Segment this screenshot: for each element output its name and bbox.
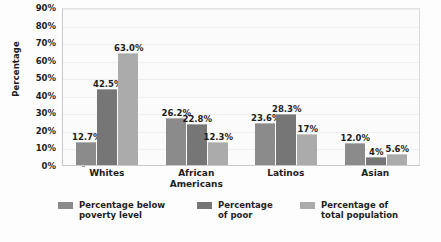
chart-legend: Percentage below poverty levelPercentage… <box>0 200 441 228</box>
bar <box>255 123 275 165</box>
y-axis-tick-label: 50% <box>24 73 56 83</box>
bar <box>76 142 96 165</box>
bar-group: 23.6%28.3%17% <box>255 9 318 165</box>
bar <box>345 143 365 165</box>
bar <box>97 89 117 165</box>
legend-label: Percentage of total population <box>321 200 398 220</box>
y-axis-tick-label: 20% <box>24 126 56 136</box>
x-axis-category-label: African Americans <box>170 168 223 190</box>
x-axis-category-label: Whites <box>89 168 124 179</box>
y-axis-tick-label: 60% <box>24 56 56 66</box>
bar <box>276 114 296 165</box>
y-axis-tick-label: 30% <box>24 108 56 118</box>
bar-value-label: 22.8% <box>183 114 213 124</box>
y-axis-tick-labels: 0%10%20%30%40%50%60%70%80%90% <box>24 8 56 166</box>
bar-value-label: 17% <box>298 124 318 134</box>
y-axis-tick-mark <box>82 166 85 167</box>
legend-item[interactable]: Percentage of total population <box>300 200 398 220</box>
y-axis-tick-label: 40% <box>24 91 56 101</box>
y-axis-tick-label: 10% <box>24 143 56 153</box>
bar <box>366 157 386 165</box>
bar-value-label: 5.6% <box>385 144 409 154</box>
bar <box>297 134 317 165</box>
legend-label: Percentage below poverty level <box>79 200 165 220</box>
y-axis-tick-label: 0% <box>24 161 56 171</box>
bar-value-label: 4% <box>369 147 383 157</box>
chart-figure: Percentage 0%10%20%30%40%50%60%70%80%90%… <box>0 0 441 242</box>
cut-off-title <box>0 0 441 6</box>
x-axis-category-label: Asian <box>361 168 389 179</box>
bar <box>118 53 138 165</box>
y-axis-tick-label: 70% <box>24 38 56 48</box>
y-axis-title: Percentage <box>11 29 21 109</box>
y-axis-tick-label: 80% <box>24 21 56 31</box>
x-axis-category-labels: WhitesAfrican AmericansLatinosAsian <box>62 168 420 194</box>
plot-area: 12.7%42.5%63.0%26.2%22.8%12.3%23.6%28.3%… <box>62 8 420 166</box>
bar-group: 12.0%4%5.6% <box>345 9 408 165</box>
bar-group: 12.7%42.5%63.0% <box>76 9 139 165</box>
bar <box>387 154 407 165</box>
bar <box>166 118 186 165</box>
bar-value-label: 28.3% <box>272 104 302 114</box>
bar <box>187 124 207 165</box>
y-axis-tick-label: 90% <box>24 3 56 13</box>
bar-value-label: 12.0% <box>341 133 371 143</box>
legend-item[interactable]: Percentage below poverty level <box>58 200 165 220</box>
bar-value-label: 12.3% <box>204 132 234 142</box>
x-axis-category-label: Latinos <box>267 168 304 179</box>
bar-value-label: 63.0% <box>114 43 144 53</box>
legend-label: Percentage of poor <box>218 200 273 220</box>
legend-color-swatch <box>197 202 212 209</box>
bar <box>208 142 228 165</box>
bar-groups: 12.7%42.5%63.0%26.2%22.8%12.3%23.6%28.3%… <box>63 9 419 165</box>
legend-color-swatch <box>58 202 73 209</box>
legend-item[interactable]: Percentage of poor <box>197 200 273 220</box>
legend-color-swatch <box>300 202 315 209</box>
bar-group: 26.2%22.8%12.3% <box>166 9 229 165</box>
